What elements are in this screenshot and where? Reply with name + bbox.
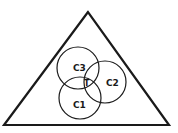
label-c1: C1 <box>73 100 86 110</box>
label-c3: C3 <box>73 63 86 73</box>
venn-triangle-diagram: C3 C2 C1 T <box>0 0 178 133</box>
label-c2: C2 <box>106 78 119 88</box>
label-intersection-t: T <box>84 79 90 88</box>
circle-c1 <box>59 77 101 119</box>
circle-c2 <box>84 61 126 103</box>
outer-triangle <box>4 12 169 125</box>
